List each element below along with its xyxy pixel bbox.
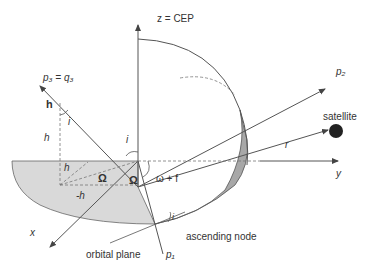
ascending-node-label: ascending node	[186, 231, 257, 242]
hz-label: h	[44, 132, 50, 143]
y-axis-label: y	[335, 168, 342, 179]
omega-center-label: Ω	[129, 174, 138, 186]
satellite-dot	[329, 124, 343, 138]
orbit-arc	[138, 39, 248, 165]
orbital-plane-shape	[155, 110, 248, 224]
x-axis-label: x	[29, 227, 36, 238]
incl-center-label: i	[126, 134, 129, 145]
hy-label: -h	[76, 190, 85, 201]
omega-left-label: Ω	[98, 172, 107, 184]
incl-arc-center	[126, 152, 138, 157]
incl-node-label: i	[172, 212, 175, 222]
hx-label: h	[64, 162, 70, 173]
satellite-label: satellite	[323, 111, 357, 122]
p3-label: p₃ = q₃	[42, 72, 73, 83]
orbital-elements-diagram: z = CEP p₃ = q₃ p₂ p₁ h h h -h i i i Ω Ω…	[0, 0, 370, 274]
p2-label: p₂	[335, 66, 346, 77]
p1-label: p₁	[165, 249, 175, 260]
arg-lat-label: ω + f	[156, 173, 178, 184]
dashed-arc	[180, 77, 235, 95]
z-axis-label: z = CEP	[157, 13, 194, 24]
omega-f-arc	[143, 161, 149, 177]
orbital-plane-label: orbital plane	[86, 249, 141, 260]
h-vector-label: h	[46, 98, 53, 110]
r-label: r	[285, 139, 289, 150]
